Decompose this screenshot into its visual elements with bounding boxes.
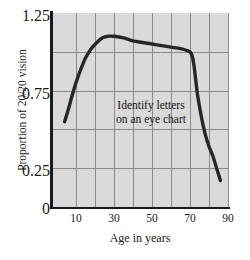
- x-tick-label-30: 30: [94, 212, 134, 224]
- annotation-line-2: on an eye chart: [95, 113, 207, 127]
- x-tick-label-90: 90: [208, 212, 248, 224]
- x-tick-label-70: 70: [170, 212, 210, 224]
- x-axis-title: Age in years: [52, 231, 228, 246]
- chart-annotation: Identify letters on an eye chart: [95, 99, 207, 126]
- x-tick-label-50: 50: [132, 212, 172, 224]
- x-tick-label-10: 10: [56, 212, 96, 224]
- annotation-line-1: Identify letters: [95, 99, 207, 113]
- x-axis-line: [50, 207, 230, 210]
- gridline-vertical-90: [228, 13, 229, 207]
- y-tick-label-1.25: 1.25: [22, 7, 50, 24]
- y-axis-line: [50, 11, 53, 209]
- y-tick-label-0: 0: [42, 200, 50, 217]
- y-axis-title: Proportion of 20/20 vision: [16, 30, 28, 190]
- chart-figure: Identify letters on an eye chart 1.25 0.…: [0, 0, 250, 260]
